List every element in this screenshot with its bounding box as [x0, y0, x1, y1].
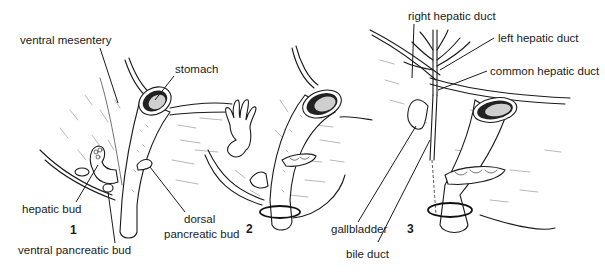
- panel-number-1: 1: [70, 223, 77, 237]
- leader-left-hepatic-duct: [440, 38, 494, 70]
- label-bile-duct: bile duct: [346, 248, 390, 260]
- embryology-diagram: ventral mesentery stomach hepatic bud 1 …: [0, 0, 605, 275]
- label-gallbladder: gallbladder: [331, 223, 387, 235]
- label-ventral-pancreatic-bud: ventral pancreatic bud: [18, 244, 131, 256]
- label-right-hepatic-duct: right hepatic duct: [408, 10, 496, 22]
- leader-gallbladder: [358, 126, 416, 222]
- panel-3: [370, 30, 570, 233]
- label-dorsal-pancreatic-bud-1: dorsal: [184, 213, 215, 225]
- label-dorsal-pancreatic-bud-2: pancreatic bud: [164, 228, 239, 240]
- label-stomach: stomach: [175, 63, 218, 75]
- panel-2: [205, 46, 372, 230]
- leader-ventral-mesentery: [100, 48, 118, 103]
- label-common-hepatic-duct: common hepatic duct: [490, 65, 600, 77]
- label-left-hepatic-duct: left hepatic duct: [498, 32, 579, 44]
- label-hepatic-bud: hepatic bud: [22, 203, 81, 215]
- label-ventral-mesentery: ventral mesentery: [20, 34, 112, 46]
- leader-common-hepatic-duct: [438, 71, 487, 90]
- leader-right-hepatic-duct: [412, 24, 414, 78]
- leader-dorsal-pancreatic-bud: [150, 167, 185, 212]
- panel-number-3: 3: [407, 222, 414, 236]
- leader-bile-duct: [378, 140, 430, 242]
- panel-number-2: 2: [246, 222, 253, 236]
